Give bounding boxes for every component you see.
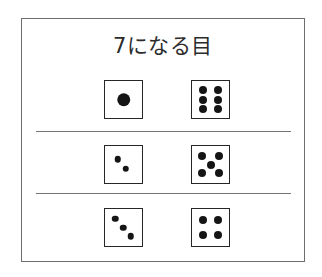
figure-frame: 7になる目 <box>21 18 305 262</box>
die-face-left <box>104 80 143 119</box>
die-pip <box>122 166 129 173</box>
die-pip <box>199 86 207 94</box>
die-pip <box>199 96 207 104</box>
row-divider <box>36 193 291 194</box>
die-pip <box>199 231 207 239</box>
die-face-left <box>104 208 143 247</box>
die-pip <box>128 233 135 240</box>
die-pip <box>214 96 222 104</box>
die-pip <box>198 152 206 160</box>
die-pip <box>214 216 222 224</box>
row-divider <box>36 131 291 132</box>
die-pip <box>117 93 131 107</box>
die-face-right <box>191 80 230 119</box>
die-pip <box>207 161 215 169</box>
dice-pair-row <box>22 200 304 262</box>
die-pip <box>214 86 222 94</box>
die-pip <box>198 169 206 177</box>
die-face-left <box>104 145 143 184</box>
die-pip <box>112 215 119 222</box>
die-pip <box>214 231 222 239</box>
die-face-right <box>191 145 230 184</box>
die-pip <box>120 224 127 231</box>
dice-pair-row <box>22 72 304 134</box>
die-pip <box>215 169 223 177</box>
die-pip <box>214 105 222 113</box>
page-title: 7になる目 <box>22 33 304 59</box>
die-face-right <box>191 208 230 247</box>
dice-pair-row <box>22 137 304 199</box>
die-pip <box>199 216 207 224</box>
die-pip <box>199 105 207 113</box>
die-pip <box>215 152 223 160</box>
die-pip <box>115 156 122 163</box>
